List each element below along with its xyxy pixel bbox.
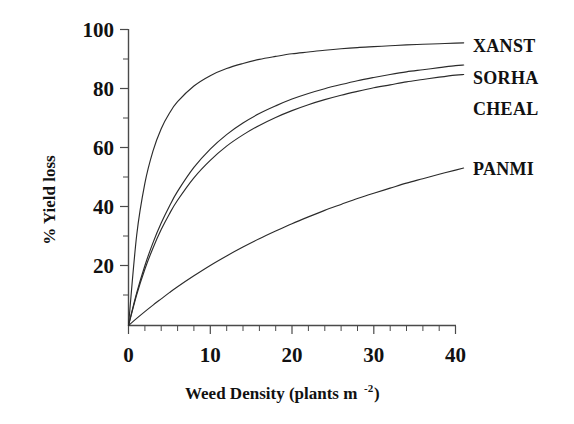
series-label-cheal: CHEAL — [473, 99, 539, 119]
y-axis-title: % Yield loss — [40, 155, 59, 245]
series-label-sorha: SORHA — [473, 68, 539, 88]
x-tick-label-10: 10 — [200, 343, 221, 367]
chart-figure: 100 80 60 40 20 — [0, 0, 574, 424]
y-tick-label-40: 40 — [93, 195, 114, 219]
x-tick-label-20: 20 — [282, 343, 303, 367]
x-axis-title-superscript: -2 — [364, 382, 374, 394]
y-tick-label-80: 80 — [93, 77, 114, 101]
y-tick-label-20: 20 — [93, 254, 114, 278]
x-axis-title-main: Weed Density (plants m — [185, 384, 357, 403]
x-axis-title: Weed Density (plants m -2 ) — [185, 382, 380, 403]
series-label-panmi: PANMI — [473, 159, 534, 179]
y-tick-label-100: 100 — [83, 18, 115, 42]
x-axis-title-end: ) — [374, 384, 380, 403]
y-tick-label-60: 60 — [93, 136, 114, 160]
x-tick-label-0: 0 — [123, 343, 134, 367]
series-label-xanst: XANST — [473, 36, 536, 56]
x-tick-label-40: 40 — [445, 343, 466, 367]
x-tick-label-30: 30 — [363, 343, 384, 367]
chart-svg: 100 80 60 40 20 — [0, 0, 574, 424]
